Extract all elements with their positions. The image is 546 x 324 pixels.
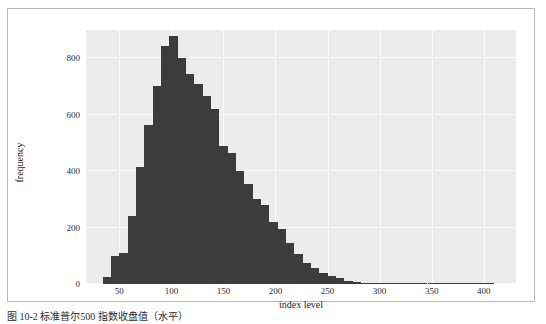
histogram-bar [386, 283, 394, 284]
histogram-bar [303, 263, 311, 284]
histogram-bar [128, 216, 136, 284]
histogram-bar [144, 125, 152, 284]
histogram-bar [378, 283, 386, 284]
x-tick-label: 200 [269, 286, 283, 296]
histogram-bar [394, 283, 402, 284]
x-tick-label: 50 [115, 286, 124, 296]
histogram-bar [403, 283, 411, 284]
histogram-bar [161, 46, 169, 284]
histogram-bar [194, 84, 202, 284]
histogram-bar [361, 283, 369, 284]
histogram-bar [319, 273, 327, 284]
figure-frame: 50100150200250300350400 0200400600800 in… [7, 8, 535, 302]
histogram-bar [119, 253, 127, 284]
histogram-bar [111, 256, 119, 284]
figure-caption: 图 10-2 标准普尔500 指数收盘值（水平） [7, 308, 537, 324]
histogram-bar [211, 109, 219, 284]
histogram-bar [136, 167, 144, 284]
histogram-bar [286, 243, 294, 284]
y-tick-label: 600 [80, 110, 94, 120]
figure-page: 50100150200250300350400 0200400600800 in… [0, 0, 546, 324]
histogram-bar [444, 283, 452, 284]
histogram-bar [261, 205, 269, 284]
histogram-bar [452, 283, 460, 284]
histogram-bar [244, 184, 252, 284]
x-tick-label: 250 [321, 286, 335, 296]
y-tick-label: 200 [80, 223, 94, 233]
x-tick-label: 400 [477, 286, 491, 296]
histogram-bar [344, 281, 352, 284]
histogram-bar [436, 283, 444, 284]
histogram-bar [178, 58, 186, 284]
histogram-bar [311, 268, 319, 284]
histogram-bar [328, 276, 336, 284]
histogram-bar [219, 146, 227, 284]
y-axis-label: frequency [14, 143, 25, 183]
histogram-bar [486, 283, 494, 284]
y-tick-label: 800 [80, 53, 94, 63]
x-tick-label: 150 [217, 286, 231, 296]
y-tick-label: 0 [80, 279, 85, 289]
histogram-bar [153, 86, 161, 284]
histogram-plot-area [86, 30, 516, 284]
x-tick-label: 300 [373, 286, 387, 296]
histogram-bar [228, 153, 236, 284]
histogram-bar [169, 36, 177, 284]
histogram-bar [294, 254, 302, 284]
histogram-bar [419, 283, 427, 284]
histogram-bar [477, 283, 485, 284]
histogram-bar [203, 96, 211, 284]
histogram-bar [336, 278, 344, 284]
histogram-bar [269, 222, 277, 284]
histogram-bar [278, 229, 286, 284]
histogram-bar [369, 283, 377, 284]
histogram-bar [353, 282, 361, 284]
histogram-bars [86, 30, 516, 284]
histogram-bar [411, 283, 419, 284]
histogram-bar [186, 74, 194, 284]
histogram-bar [103, 277, 111, 284]
histogram-bar [461, 283, 469, 284]
histogram-bar [236, 171, 244, 284]
histogram-bar [253, 199, 261, 284]
y-tick-label: 400 [80, 166, 94, 176]
x-tick-label: 100 [165, 286, 179, 296]
histogram-bar [469, 283, 477, 284]
x-tick-label: 350 [425, 286, 439, 296]
histogram-bar [428, 283, 436, 284]
